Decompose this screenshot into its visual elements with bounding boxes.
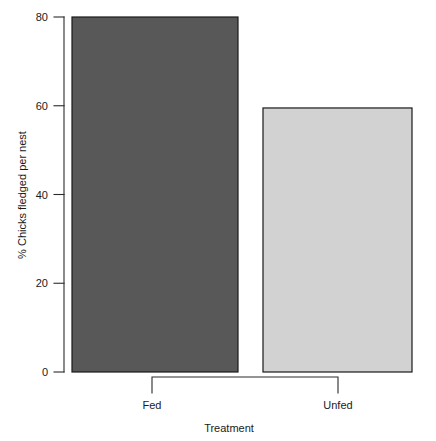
x-tick-label-unfed: Unfed	[323, 399, 352, 411]
y-tick-label-40: 40	[36, 189, 48, 201]
x-axis-title: Treatment	[204, 422, 254, 434]
x-tick-label-fed: Fed	[143, 399, 162, 411]
y-axis-title: % Chicks fledged per nest	[16, 131, 28, 259]
y-tick-label-80: 80	[36, 11, 48, 23]
bar-chart-figure: 80 60 40 20 0 % Chicks fledged per nest …	[0, 0, 436, 441]
y-tick-label-60: 60	[36, 100, 48, 112]
y-tick-label-0: 0	[42, 366, 48, 378]
chart-canvas: 80 60 40 20 0 % Chicks fledged per nest …	[0, 0, 436, 441]
bar-unfed[interactable]	[263, 108, 412, 372]
bar-fed[interactable]	[72, 17, 238, 372]
y-tick-label-20: 20	[36, 277, 48, 289]
